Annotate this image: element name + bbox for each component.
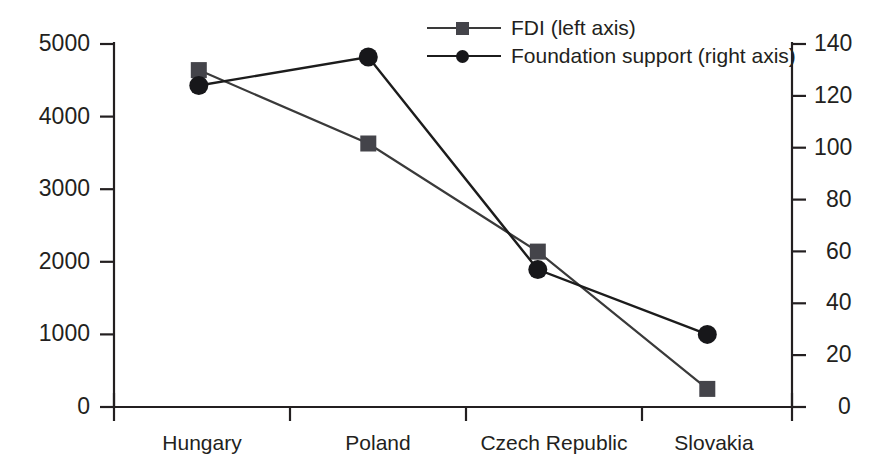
legend-key-fdi — [427, 18, 501, 38]
x-axis-label-slovakia: Slovakia — [638, 432, 790, 453]
left-axis-tick-1000: 1000 — [10, 322, 90, 345]
square-marker-icon — [456, 22, 469, 35]
data-point-foundation-poland — [359, 48, 378, 67]
left-axis-tick-4000: 4000 — [10, 105, 90, 128]
right-axis-tick-40: 40 — [826, 291, 886, 314]
right-axis-tick-100: 100 — [814, 136, 884, 159]
legend-item-fdi[interactable]: FDI (left axis) — [427, 17, 636, 38]
left-axis-ticks — [100, 44, 114, 407]
right-axis-ticks — [792, 44, 806, 407]
right-axis-tick-80: 80 — [826, 188, 886, 211]
series-markers-foundation-support — [189, 48, 717, 344]
data-point-fdi-czech-republic — [530, 244, 546, 260]
legend-item-foundation-support[interactable]: Foundation support (right axis) — [427, 45, 796, 66]
left-axis-tick-0: 0 — [10, 395, 90, 418]
data-point-fdi-poland — [360, 136, 376, 152]
legend-label-foundation-support: Foundation support (right axis) — [501, 45, 796, 66]
data-point-fdi-slovakia — [699, 381, 715, 397]
left-axis-tick-5000: 5000 — [10, 32, 90, 55]
data-point-foundation-hungary — [189, 76, 208, 95]
legend-label-fdi: FDI (left axis) — [501, 17, 636, 38]
series-line-foundation-support — [199, 57, 708, 334]
circle-marker-icon — [456, 50, 469, 63]
data-point-fdi-hungary — [191, 62, 207, 78]
right-axis-tick-20: 20 — [826, 343, 886, 366]
left-axis-tick-2000: 2000 — [10, 250, 90, 273]
x-axis-label-czech-republic: Czech Republic — [466, 432, 642, 453]
chart-plot-area — [0, 0, 887, 467]
data-point-foundation-czech-republic — [528, 260, 547, 279]
x-axis-label-hungary: Hungary — [122, 432, 282, 453]
series-line-fdi — [199, 70, 708, 389]
data-point-foundation-slovakia — [698, 325, 717, 344]
right-axis-tick-140: 140 — [814, 32, 884, 55]
chart-container: 5000 4000 3000 2000 1000 0 140 120 100 8… — [0, 0, 887, 467]
legend-key-foundation-support — [427, 46, 501, 66]
x-axis-label-poland: Poland — [298, 432, 458, 453]
right-axis-tick-60: 60 — [826, 240, 886, 263]
right-axis-tick-120: 120 — [814, 84, 884, 107]
series-markers-fdi — [191, 62, 716, 397]
left-axis-tick-3000: 3000 — [10, 177, 90, 200]
right-axis-tick-0: 0 — [838, 395, 887, 418]
